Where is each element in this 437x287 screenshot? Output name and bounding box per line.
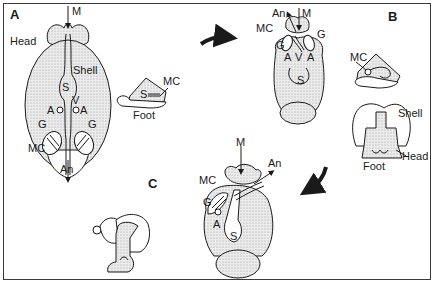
panel-a: A M Head Shell S V A A G G MC An [10,5,180,180]
label-anus: An [268,157,281,169]
label-front-b-head: Head [402,150,428,162]
label-head: Head [10,35,36,47]
arrow-b-to-c [310,167,326,189]
arrow-a-to-b [201,37,226,44]
label-atrium: A [213,218,221,230]
torsion-diagram: A M Head Shell S V A A G G MC An [0,0,437,287]
label-atrium-right: A [80,104,88,116]
label-gill: G [203,196,212,208]
label-gill-left: G [276,39,285,51]
label-mouth: M [72,5,81,17]
label-gill-right: G [88,118,97,130]
label-mantle-cavity: MC [199,174,216,186]
label-side-a-mantle-cavity: MC [163,75,180,87]
label-atrium-left: A [47,104,55,116]
label-stomach: S [297,74,304,86]
adult-snail [93,214,150,272]
panel-label-b: B [388,9,397,24]
label-anus: An [272,7,285,19]
label-stomach: S [230,230,237,242]
label-atrium-right: A [307,51,315,63]
label-front-b-shell: Shell [398,107,422,119]
panel-c: C M An MC G A S [93,136,281,278]
label-gill-left: G [38,118,47,130]
label-mouth: M [302,7,311,19]
head-shape [225,164,261,184]
label-mouth: M [236,136,245,148]
atrium-right [73,107,79,113]
atrium [215,209,221,215]
panel-label-c: C [148,176,158,191]
label-mantle-cavity: MC [28,142,45,154]
shell-apex [216,250,260,278]
label-atrium-left: A [284,51,292,63]
panel-b: B An M MC G G A V A S MC [256,7,428,172]
shell-apex [280,102,316,124]
label-ventricle: V [72,94,80,106]
label-mantle-cavity: MC [256,22,273,34]
label-front-b-foot: Foot [363,160,385,172]
label-gill-right: G [317,28,326,40]
label-side-a-foot: Foot [133,109,155,121]
atrium-left [57,107,63,113]
label-stomach: S [62,81,69,93]
panel-label-a: A [10,7,20,22]
label-side-a-stomach: S [140,88,147,100]
label-shell: Shell [73,64,97,76]
label-ventricle: V [295,51,303,63]
label-anus: An [60,163,73,175]
label-side-b-mantle-cavity: MC [350,51,367,63]
